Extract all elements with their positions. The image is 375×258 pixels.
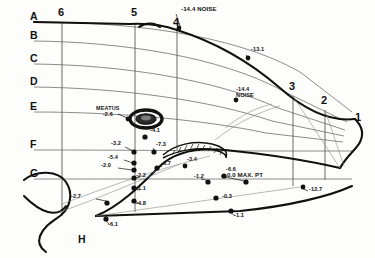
crown-profile <box>34 22 355 119</box>
waterline-E <box>34 112 343 142</box>
point-dot <box>246 56 251 61</box>
cp-label: -1.2 <box>194 174 204 180</box>
row-label-h: H <box>78 234 86 245</box>
cp-label: -7.3 <box>156 142 166 148</box>
station-label-2: 2 <box>321 95 327 107</box>
point-dot <box>142 134 147 139</box>
point-dot <box>243 179 248 184</box>
waterline-D <box>34 87 344 136</box>
cp-label: -4.8 <box>136 201 146 207</box>
point-dot <box>154 165 159 170</box>
point-dot <box>151 149 156 154</box>
station-label-3: 3 <box>289 81 295 93</box>
cp-label: -6.1 <box>108 222 118 228</box>
cp-label: -2.0 <box>101 163 111 169</box>
cp-label: -6.7 <box>161 161 171 167</box>
profile-drawing <box>0 0 375 258</box>
row-label-d: D <box>30 76 38 87</box>
noise-callout-mid: -14.4 NOISE <box>236 86 254 99</box>
cp-label: -2.7 <box>71 194 81 200</box>
meatus-callout: MEATUS -2.6 <box>96 105 120 118</box>
station-label-1: 1 <box>355 112 361 124</box>
chin-profile <box>96 149 340 216</box>
max-point-callout: 0.0 MAX. PT <box>227 172 263 178</box>
point-dot <box>126 117 131 122</box>
tail-closure <box>340 119 362 168</box>
point-dot <box>221 173 226 178</box>
cp-label: -0.3 <box>222 194 232 200</box>
point-dot <box>228 208 233 213</box>
row-label-b: B <box>30 30 38 41</box>
row-label-e: E <box>30 101 37 112</box>
cp-label: -1.1 <box>234 213 244 219</box>
row-label-a: A <box>30 11 38 22</box>
point-dot <box>131 149 136 154</box>
noise-callout-top: -14.4 NOISE <box>181 6 217 12</box>
cp-label: -3.4 <box>187 157 197 163</box>
diagram-canvas: A B C D E F G H 6 5 4 3 2 1 MEATUS -2.6 … <box>0 0 375 258</box>
inlet-hook-profile <box>24 173 70 252</box>
station-label-4: 4 <box>173 17 179 29</box>
cp-label: -3.2 <box>111 141 121 147</box>
point-dot <box>213 195 218 200</box>
cp-label: -1.1 <box>136 186 146 192</box>
cp-label: -12.7 <box>309 187 322 193</box>
cp-label: -2.2 <box>136 173 146 179</box>
station-label-5: 5 <box>131 7 137 19</box>
cp-label: -13.1 <box>251 47 264 53</box>
station-grid <box>62 22 325 216</box>
row-label-c: C <box>30 53 38 64</box>
row-label-f: F <box>30 139 37 150</box>
point-dot <box>104 200 109 205</box>
cp-label: -4.1 <box>150 128 160 134</box>
station-label-6: 6 <box>58 7 64 19</box>
waterline-C <box>34 64 345 130</box>
point-dot <box>205 179 210 184</box>
point-dot <box>301 185 306 190</box>
waterline-B <box>34 41 347 122</box>
row-label-g: G <box>30 168 38 179</box>
point-dot <box>183 164 188 169</box>
point-dot <box>131 160 136 165</box>
cp-label: -5.4 <box>108 155 118 161</box>
